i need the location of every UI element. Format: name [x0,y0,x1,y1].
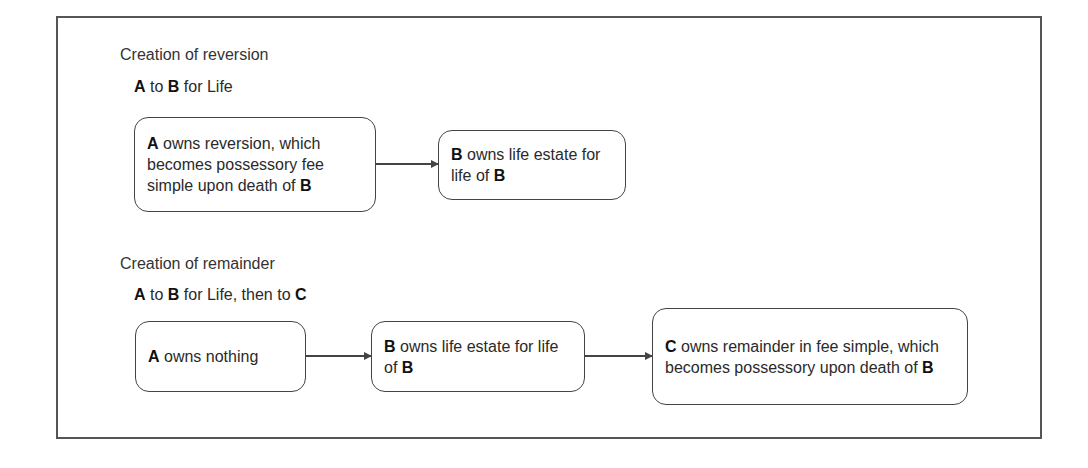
box-a-owns-reversion: A owns reversion, which becomes possesso… [134,117,376,212]
arrow-right-icon [376,163,438,165]
arrow-right-icon [306,355,371,357]
box-b-owns-life-estate: B owns life estate for life of B [438,130,626,200]
box-text: B owns life estate for life of B [451,144,611,186]
party-b-label: B [922,359,934,376]
box-description: owns life estate for life of [451,146,600,184]
conveyance-text: to [146,286,168,303]
party-b-label: B [300,177,312,194]
party-b-label: B [402,359,414,376]
party-b-label: B [494,167,506,184]
party-b-label: B [168,286,180,303]
party-a-label: A [134,78,146,95]
conveyance-text: to [146,78,168,95]
party-c-label: C [665,338,677,355]
party-b-label: B [384,338,396,355]
conveyance-reversion: A to B for Life [134,78,233,96]
party-b-label: B [451,146,463,163]
box-a-owns-nothing: A owns nothing [135,321,306,392]
party-a-label: A [147,135,159,152]
box-text: C owns remainder in fee simple, which be… [665,336,955,378]
section-title-remainder: Creation of remainder [120,255,275,273]
party-b-label: B [168,78,180,95]
party-a-label: A [134,286,146,303]
arrow-right-icon [585,355,652,357]
section-title-reversion: Creation of reversion [120,46,269,64]
box-description: owns reversion, which becomes possessory… [147,135,324,194]
box-text: A owns reversion, which becomes possesso… [147,133,363,196]
conveyance-remainder: A to B for Life, then to C [134,286,307,304]
box-text: A owns nothing [148,346,258,367]
box-text: B owns life estate for life of B [384,336,572,378]
conveyance-text: for Life, then to [179,286,295,303]
party-c-label: C [295,286,307,303]
box-description: owns nothing [160,348,259,365]
box-description: owns remainder in fee simple, which beco… [665,338,939,376]
conveyance-text: for Life [179,78,232,95]
box-b-owns-life-estate-2: B owns life estate for life of B [371,321,585,392]
box-c-owns-remainder: C owns remainder in fee simple, which be… [652,308,968,405]
party-a-label: A [148,348,160,365]
